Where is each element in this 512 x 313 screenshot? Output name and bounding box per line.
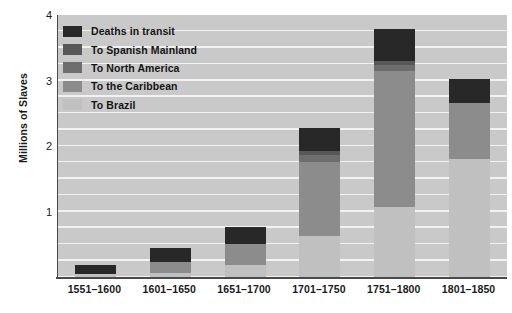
bar-1751-1800[interactable] [374, 29, 415, 277]
x-tick-label: 1651–1700 [217, 283, 270, 295]
bar-segment [299, 151, 340, 154]
bar-1651-1700[interactable] [225, 227, 266, 277]
y-tick-label: 1 [30, 206, 52, 218]
legend-swatch-icon [63, 99, 82, 110]
gridline [58, 210, 507, 212]
bar-segment [374, 71, 415, 207]
legend-item-label: To the Caribbean [91, 80, 178, 92]
legend-item[interactable]: To Spanish Mainland [63, 40, 263, 58]
bar-segment [299, 236, 340, 277]
x-tick-label: 1601–1650 [143, 283, 196, 295]
bar-segment [225, 244, 266, 265]
y-tick-label: 2 [30, 140, 52, 152]
legend-item-label: To North America [91, 62, 180, 74]
legend-swatch-icon [63, 44, 82, 55]
legend-item-label: Deaths in transit [91, 25, 175, 37]
bar-segment [374, 29, 415, 60]
bar-segment [150, 248, 191, 262]
y-axis-tick-labels: 1234 [30, 15, 52, 277]
bar-segment [299, 162, 340, 235]
gridline [58, 243, 507, 245]
gridline [58, 226, 507, 228]
bar-segment [374, 65, 415, 71]
bar-segment [150, 262, 191, 273]
legend-item[interactable]: Deaths in transit [63, 22, 263, 40]
x-axis-tick-labels: 1551–16001601–16501651–17001701–17501751… [57, 283, 506, 307]
bar-1601-1650[interactable] [150, 248, 191, 277]
legend-item-label: To Spanish Mainland [91, 44, 197, 56]
legend-item[interactable]: To Brazil [63, 96, 263, 114]
bar-segment [225, 227, 266, 245]
bar-segment [374, 61, 415, 65]
bar-segment [449, 159, 490, 277]
bar-segment [299, 155, 340, 163]
gridline [58, 161, 507, 163]
gridline [58, 194, 507, 196]
gridline [58, 177, 507, 179]
gridline [58, 128, 507, 130]
legend-swatch-icon [63, 81, 82, 92]
x-axis-line [56, 277, 507, 279]
bar-segment [374, 207, 415, 277]
x-tick-label: 1701–1750 [292, 283, 345, 295]
bar-segment [449, 103, 490, 159]
stacked-bar-chart: Millions of Slaves 1234 1551–16001601–16… [0, 0, 512, 313]
bar-segment [299, 128, 340, 152]
legend-swatch-icon [63, 26, 82, 37]
x-tick-label: 1751–1800 [367, 283, 420, 295]
bar-1701-1750[interactable] [299, 128, 340, 277]
bar-1801-1850[interactable] [449, 79, 490, 277]
gridline [58, 259, 507, 261]
x-tick-label: 1551–1600 [68, 283, 121, 295]
legend-item[interactable]: To North America [63, 59, 263, 77]
gridline [58, 145, 507, 147]
legend-swatch-icon [63, 62, 82, 73]
y-tick-label: 3 [30, 75, 52, 87]
x-tick-label: 1801–1850 [442, 283, 495, 295]
y-axis-title: Millions of Slaves [17, 58, 29, 178]
legend-item-label: To Brazil [91, 99, 135, 111]
bar-segment [225, 265, 266, 277]
bar-1551-1600[interactable] [75, 265, 116, 277]
bar-segment [449, 79, 490, 103]
chart-legend: Deaths in transitTo Spanish MainlandTo N… [63, 22, 263, 114]
y-tick-label: 4 [30, 9, 52, 21]
legend-item[interactable]: To the Caribbean [63, 77, 263, 95]
bar-segment [75, 265, 116, 274]
